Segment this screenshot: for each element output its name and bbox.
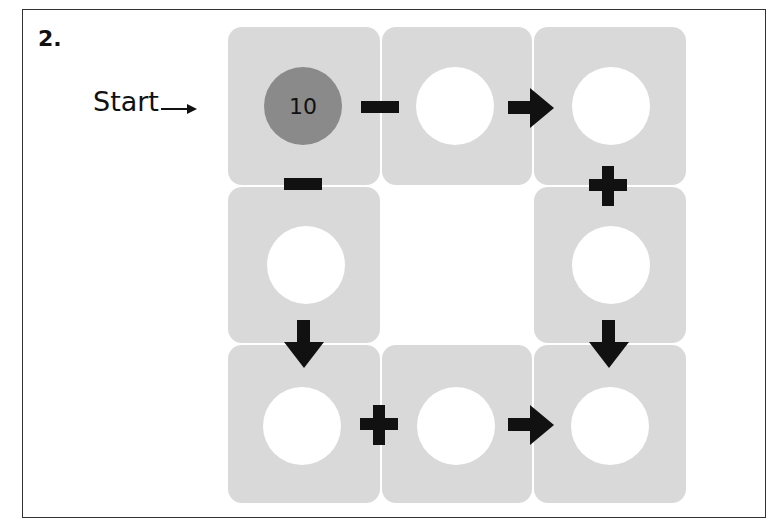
arrow-down-icon — [284, 320, 324, 368]
question-number: 2. — [38, 26, 62, 51]
answer-circle-bottom-middle[interactable] — [417, 387, 495, 465]
minus-icon — [284, 177, 324, 191]
answer-circle-middle-left[interactable] — [267, 226, 345, 304]
arrow-down-icon — [589, 320, 629, 368]
answer-circle-middle-right[interactable] — [572, 226, 650, 304]
start-label: Start — [93, 86, 159, 117]
arrow-right-icon — [508, 88, 554, 128]
arrow-right-icon — [508, 405, 554, 445]
answer-circle-top-right[interactable] — [572, 67, 650, 145]
answer-circle-bottom-right[interactable] — [571, 387, 649, 465]
start-number-circle: 10 — [264, 67, 342, 145]
answer-circle-bottom-left[interactable] — [263, 387, 341, 465]
minus-icon — [361, 100, 401, 114]
right-arrow-icon — [161, 103, 197, 115]
answer-circle-top-middle[interactable] — [416, 67, 494, 145]
plus-icon — [360, 405, 400, 445]
plus-icon — [589, 166, 629, 206]
